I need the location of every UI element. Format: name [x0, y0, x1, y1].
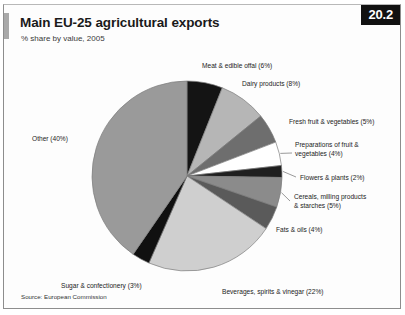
leader-line	[282, 193, 291, 201]
pie-slice-label: Beverages, spirits & vinegar (22%)	[222, 288, 401, 297]
pie-chart: Meat & edible offal (6%)Dairy products (…	[4, 5, 401, 309]
pie-slice-label: Other (40%)	[32, 135, 112, 144]
source-note: Source: European Commission	[21, 293, 107, 300]
pie-slice-label: Cereals, milling products & starches (5%…	[294, 193, 401, 211]
pie-slice-label: Sugar & confectionery (3%)	[61, 282, 201, 291]
pie-slice-group	[92, 81, 282, 271]
pie-slice-label: Preparations of fruit & vegetables (4%)	[295, 141, 399, 159]
leader-line	[283, 171, 296, 177]
pie-slice-label: Flowers & plants (2%)	[300, 174, 401, 183]
pie-slice-label: Fats & oils (4%)	[276, 226, 388, 235]
pie-slice-label: Fresh fruit & vegetables (5%)	[289, 118, 401, 127]
chart-panel: Main EU-25 agricultural exports % share …	[3, 4, 401, 309]
pie-slice-label: Dairy products (8%)	[242, 80, 372, 89]
pie-slice-label: Meat & edible offal (6%)	[202, 62, 342, 71]
